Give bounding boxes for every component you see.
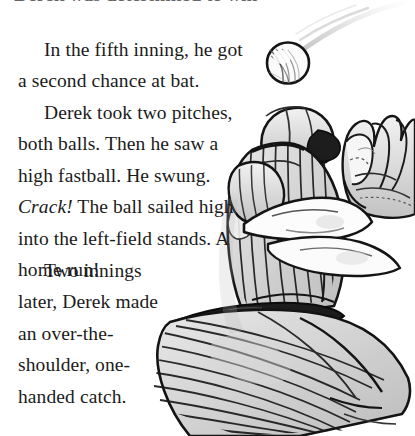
body-text-column: Derek was determined to win this game. I… xyxy=(0,0,240,436)
paragraph-two-innings-later: Two innings later, Derek made an over-th… xyxy=(18,255,168,413)
fielders-glove-icon xyxy=(343,116,415,218)
book-page: Derek was determined to win this game. I… xyxy=(0,0,415,436)
clipped-top-line: Derek was determined to win this game. xyxy=(14,0,260,6)
clipped-top-line-container: Derek was determined to win this game. xyxy=(0,0,260,7)
baseball-icon xyxy=(267,43,309,84)
paragraph-fifth-inning: In the fifth inning, he got a second cha… xyxy=(18,34,243,97)
paragraph-home-run-part-1: Derek took two pitches, both balls. Then… xyxy=(18,102,233,186)
crack-emphasis: Crack! xyxy=(18,196,73,217)
motion-trail-icon xyxy=(296,1,415,48)
